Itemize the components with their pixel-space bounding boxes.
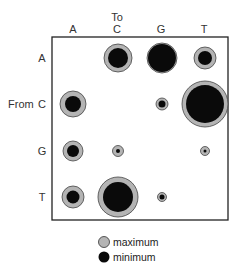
legend-minimum-label: minimum [113,251,156,263]
legend: maximum minimum [99,236,159,263]
bubble-g-to-a [63,141,83,161]
row-label-t: T [39,191,46,203]
x-axis-title: To [111,11,123,23]
legend-maximum-swatch [99,237,110,248]
minimum-circle [116,149,120,153]
bubble-c-to-g [156,98,168,110]
row-label-a: A [38,52,46,64]
column-label-c: C [113,23,121,35]
column-label-a: A [69,23,77,35]
minimum-circle [67,191,80,204]
bubble-a-to-c [104,44,132,72]
bubble-t-to-c [98,177,138,217]
y-axis-title: From [8,98,34,110]
minimum-circle [103,182,133,212]
minimum-circle [198,51,212,65]
row-label-c: C [38,98,46,110]
column-label-g: G [157,23,166,35]
bubble-a-to-g [147,43,177,73]
minimum-circle [148,44,176,72]
bubble-chart: To From A C G T A C G T maximum minimum [0,0,239,273]
bubble-g-to-c [113,146,124,157]
minimum-circle [108,48,128,68]
column-label-t: T [201,23,208,35]
bubble-c-to-a [60,91,86,117]
minimum-circle [159,101,166,108]
minimum-circle [67,145,79,157]
minimum-circle [65,96,81,112]
legend-minimum-swatch [99,252,110,263]
bubble-g-to-t [201,147,210,156]
minimum-circle [186,85,224,123]
bubble-a-to-t [194,47,216,69]
bubble-layer [60,43,228,217]
minimum-circle [204,150,207,153]
bubble-t-to-g [158,193,167,202]
minimum-circle [160,195,165,200]
row-label-g: G [38,145,47,157]
bubble-c-to-t [182,81,228,127]
bubble-t-to-a [62,186,84,208]
legend-maximum-label: maximum [113,236,159,248]
